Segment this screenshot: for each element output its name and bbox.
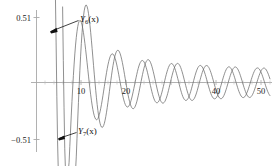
x-tick-label-40: 40 <box>212 86 221 96</box>
curve-label-y6: Y6(x) <box>80 14 99 25</box>
curve-label-y7-argument: (x) <box>86 126 97 136</box>
x-tick-label-20: 20 <box>122 86 131 96</box>
y-tick-label-min: −0.51 <box>11 135 31 145</box>
svg-text:Y7(x): Y7(x) <box>78 126 97 137</box>
x-tick-label-50: 50 <box>257 86 266 96</box>
svg-text:Y6(x): Y6(x) <box>80 14 99 25</box>
x-tick-label-10: 10 <box>77 86 86 96</box>
y-tick-label-max: 0.51 <box>16 13 31 23</box>
curve-label-y7: Y7(x) <box>78 126 97 137</box>
curve-label-y6-argument: (x) <box>88 14 99 24</box>
bessel-plot-figure: 0.51 −0.51 10 20 40 50 Y6(x) Y7(x) <box>0 0 278 166</box>
plot-canvas: 0.51 −0.51 10 20 40 50 Y6(x) Y7(x) <box>0 0 278 166</box>
